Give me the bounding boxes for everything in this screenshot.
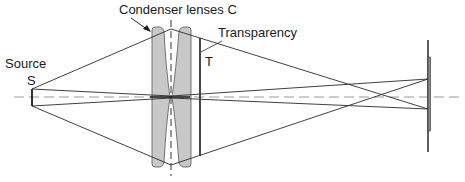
condenser-arrowhead-icon bbox=[143, 25, 151, 32]
condenser-label: Condenser lenses C bbox=[119, 2, 237, 17]
source-symbol-label: S bbox=[27, 73, 36, 88]
ray-outer-bottom-out bbox=[171, 79, 428, 165]
projector-diagram: Source S Condenser lenses C Transparency… bbox=[0, 0, 465, 182]
source-label: Source bbox=[5, 56, 46, 71]
transparency-leader-line bbox=[201, 41, 222, 52]
ray-inner-bottom-out bbox=[171, 98, 428, 109]
transparency-symbol-label: T bbox=[205, 54, 213, 69]
transparency-label: Transparency bbox=[218, 25, 297, 40]
ray-outer-bottom-in bbox=[32, 106, 171, 165]
ray-outer-top-in bbox=[32, 29, 171, 89]
screen-surface bbox=[428, 57, 431, 131]
ray-inner-top-out bbox=[171, 79, 428, 96]
ray-inner-top-in bbox=[32, 89, 171, 96]
ray-inner-bottom-in bbox=[32, 98, 171, 106]
